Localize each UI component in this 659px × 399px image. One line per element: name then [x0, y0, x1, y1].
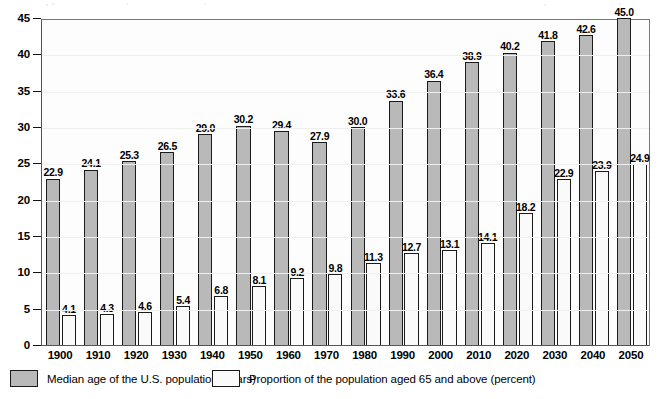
- bar-group: 26.55.4: [160, 20, 190, 345]
- bar-value-label: 9.8: [329, 263, 343, 274]
- y-axis-tick-label: 10: [18, 265, 30, 280]
- bar-value-label: 30.0: [348, 116, 367, 127]
- bar-value-label: 23.9: [592, 160, 611, 171]
- bar-median-2050: 45.0: [617, 18, 631, 345]
- bar-value-label: 41.8: [538, 30, 557, 41]
- bar-group: 29.49.2: [274, 20, 304, 345]
- y-axis-tick-label: 20: [18, 193, 30, 208]
- bar-value-label: 45.0: [614, 7, 633, 18]
- bar-group: 24.14.3: [84, 20, 114, 345]
- y-axis-tick-label: 5: [24, 302, 30, 317]
- bar-value-label: 5.4: [176, 295, 190, 306]
- x-axis-label-2000: 2000: [428, 349, 453, 361]
- x-axis-label-1970: 1970: [314, 349, 339, 361]
- y-axis-tick-mark: [33, 309, 41, 310]
- bar-group: 30.011.3: [351, 20, 381, 345]
- x-axis-label-2050: 2050: [619, 349, 644, 361]
- bar-value-label: 36.4: [424, 69, 443, 80]
- bar-group: 38.914.1: [465, 20, 495, 345]
- bar-value-label: 18.2: [516, 202, 535, 213]
- bar-prop-2000: 13.1: [442, 250, 456, 345]
- bar-value-label: 26.5: [158, 141, 177, 152]
- y-axis-tick-mark: [33, 345, 41, 346]
- bar-value-label: 29.4: [272, 120, 291, 131]
- bar-prop-1980: 11.3: [366, 263, 380, 345]
- bar-median-2000: 36.4: [427, 81, 441, 346]
- x-axis-label-2020: 2020: [504, 349, 529, 361]
- bar-value-label: 24.9: [630, 153, 649, 164]
- bar-median-2040: 42.6: [579, 35, 593, 345]
- bar-group: 42.623.9: [579, 20, 609, 345]
- bar-value-label: 8.1: [252, 275, 266, 286]
- bar-median-1990: 33.6: [389, 101, 403, 345]
- bar-value-label: 22.9: [44, 167, 63, 178]
- bar-median-1970: 27.9: [312, 142, 326, 345]
- bar-prop-1940: 6.8: [214, 296, 228, 345]
- bar-prop-2040: 23.9: [595, 171, 609, 345]
- grouped-bar-chart: 051015202530354045 22.94.124.14.325.34.6…: [0, 0, 659, 399]
- bar-value-label: 11.3: [364, 252, 383, 263]
- bar-value-label: 25.3: [120, 150, 139, 161]
- x-axis-label-1990: 1990: [390, 349, 415, 361]
- bar-median-1950: 30.2: [236, 126, 250, 345]
- bar-group: 27.99.8: [312, 20, 342, 345]
- bar-prop-2050: 24.9: [633, 164, 647, 345]
- bar-prop-1910: 4.3: [100, 314, 114, 345]
- x-axis-label-2030: 2030: [542, 349, 567, 361]
- bar-prop-1930: 5.4: [176, 306, 190, 345]
- gridline-ghost: [42, 164, 649, 165]
- gridline-ghost: [42, 273, 649, 274]
- bar-median-1940: 29.0: [198, 134, 212, 345]
- bar-value-label: 40.2: [500, 41, 519, 52]
- gridline-ghost: [42, 310, 649, 311]
- x-axis-label-1980: 1980: [352, 349, 377, 361]
- bar-prop-1960: 9.2: [290, 278, 304, 345]
- x-axis-label-1960: 1960: [276, 349, 301, 361]
- y-axis-tick-mark: [33, 18, 41, 19]
- bar-prop-1950: 8.1: [252, 286, 266, 345]
- y-axis-tick-label: 15: [18, 229, 30, 244]
- bar-value-label: 42.6: [576, 24, 595, 35]
- bar-prop-1900: 4.1: [62, 315, 76, 345]
- bar-median-1910: 24.1: [84, 170, 98, 345]
- legend-label-proportion-65-plus: Proportion of the population aged 65 and…: [249, 373, 536, 385]
- y-axis-tick-mark: [33, 54, 41, 55]
- bar-value-label: 27.9: [310, 131, 329, 142]
- gridline-ghost: [42, 92, 649, 93]
- legend-swatch-median-age: [10, 370, 38, 387]
- plot-area: 22.94.124.14.325.34.626.55.429.06.830.28…: [41, 19, 650, 346]
- bar-value-label: 4.3: [100, 303, 114, 314]
- bar-value-label: 30.2: [234, 114, 253, 125]
- x-axis-label-1950: 1950: [238, 349, 263, 361]
- y-axis: 051015202530354045: [0, 19, 41, 346]
- bar-prop-2010: 14.1: [481, 243, 495, 345]
- bar-value-label: 6.8: [214, 285, 228, 296]
- bars-layer: 22.94.124.14.325.34.626.55.429.06.830.28…: [42, 20, 649, 345]
- bar-prop-1920: 4.6: [138, 312, 152, 345]
- x-axis-label-1930: 1930: [162, 349, 187, 361]
- bar-value-label: 12.7: [402, 242, 421, 253]
- bar-median-1930: 26.5: [160, 152, 174, 345]
- x-axis-label-2010: 2010: [466, 349, 491, 361]
- y-axis-tick-mark: [33, 236, 41, 237]
- y-axis-tick-label: 25: [18, 156, 30, 171]
- x-axis-label-2040: 2040: [581, 349, 606, 361]
- bar-group: 25.34.6: [122, 20, 152, 345]
- y-axis-tick-mark: [33, 200, 41, 201]
- y-axis-tick-mark: [33, 91, 41, 92]
- bar-prop-2030: 22.9: [557, 179, 571, 345]
- y-axis-tick-label: 35: [18, 84, 30, 99]
- bar-group: 40.218.2: [503, 20, 533, 345]
- x-axis-label-1910: 1910: [86, 349, 111, 361]
- bar-prop-2020: 18.2: [519, 213, 533, 345]
- gridline-ghost: [42, 55, 649, 56]
- y-axis-tick-mark: [33, 163, 41, 164]
- bar-group: 45.024.9: [617, 20, 647, 345]
- chart-legend: Median age of the U.S. population (years…: [0, 370, 659, 399]
- x-axis: 1900191019201930194019501960197019801990…: [41, 347, 650, 367]
- y-axis-tick-label: 30: [18, 120, 30, 135]
- bar-group: 30.28.1: [236, 20, 266, 345]
- bar-median-2010: 38.9: [465, 62, 479, 345]
- bar-group: 33.612.7: [389, 20, 419, 345]
- gridline-ghost: [42, 201, 649, 202]
